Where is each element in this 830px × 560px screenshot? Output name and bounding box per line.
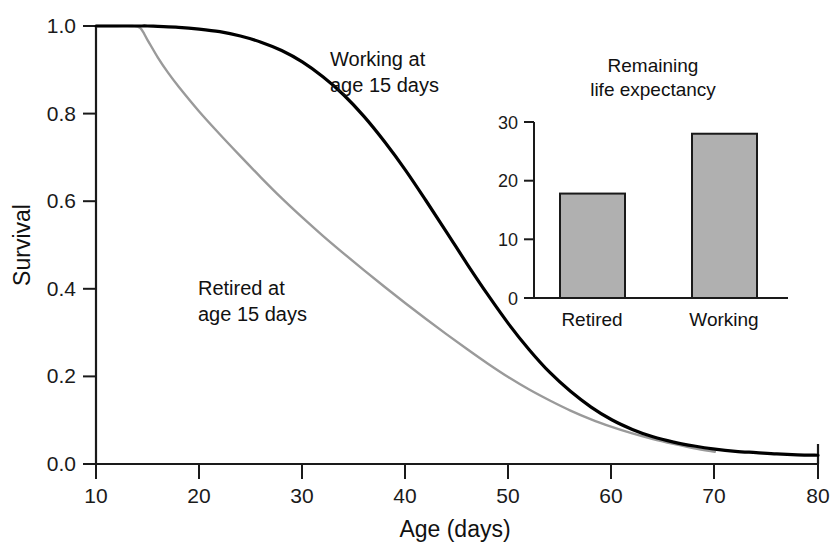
x-tick-label-6: 70: [702, 484, 725, 507]
x-tick-label-2: 30: [290, 484, 313, 507]
y-axis-title: Survival: [9, 204, 35, 286]
x-tick-label-1: 20: [187, 484, 210, 507]
inset-bar-retired: [560, 194, 625, 298]
x-tick-label-0: 10: [84, 484, 107, 507]
x-tick-label-4: 50: [496, 484, 519, 507]
survival-chart-svg: 0.0 0.2 0.4 0.6 0.8 1.0 10 20 30 40 50 6…: [0, 0, 830, 560]
inset-title-line1: Remaining: [608, 55, 699, 76]
retired-label-line1: Retired at: [198, 277, 285, 299]
y-tick-label-0: 0.0: [47, 452, 76, 475]
inset-y-tick-label-2: 20: [498, 171, 518, 191]
inset-category-label-working: Working: [689, 309, 758, 330]
y-tick-label-4: 0.8: [47, 102, 76, 125]
inset-y-tick-label-0: 0: [508, 289, 518, 309]
inset-title-line2: life expectancy: [590, 79, 716, 100]
x-tick-label-7: 80: [806, 484, 829, 507]
inset-bar-working: [692, 134, 757, 298]
inset-category-label-retired: Retired: [561, 309, 622, 330]
x-axis-title: Age (days): [399, 516, 510, 542]
x-tick-label-3: 40: [393, 484, 416, 507]
inset-y-tick-label-1: 10: [498, 230, 518, 250]
y-tick-label-1: 0.2: [47, 364, 76, 387]
x-tick-label-5: 60: [599, 484, 622, 507]
y-tick-label-2: 0.4: [47, 277, 77, 300]
figure-container: 0.0 0.2 0.4 0.6 0.8 1.0 10 20 30 40 50 6…: [0, 0, 830, 560]
inset-y-tick-label-3: 30: [498, 113, 518, 133]
working-label-line1: Working at: [330, 48, 426, 70]
y-tick-label-3: 0.6: [47, 189, 76, 212]
y-tick-label-5: 1.0: [47, 14, 76, 37]
retired-label-line2: age 15 days: [198, 303, 307, 325]
working-label-line2: age 15 days: [330, 74, 439, 96]
